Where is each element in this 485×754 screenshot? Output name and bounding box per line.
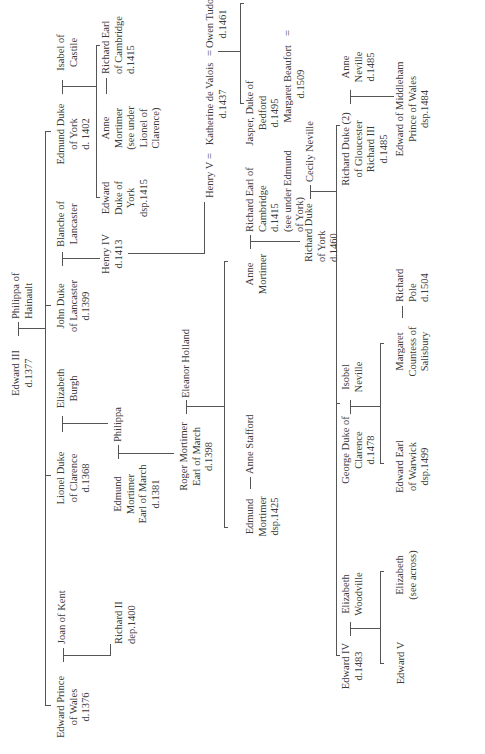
marriage-equals-3: = (282, 30, 295, 36)
person-margaret-beaufort: Margaret Beaufort d.1509 (282, 34, 307, 134)
tudor-branch: Margaret Beaufort d.1509 = (0, 0, 485, 754)
